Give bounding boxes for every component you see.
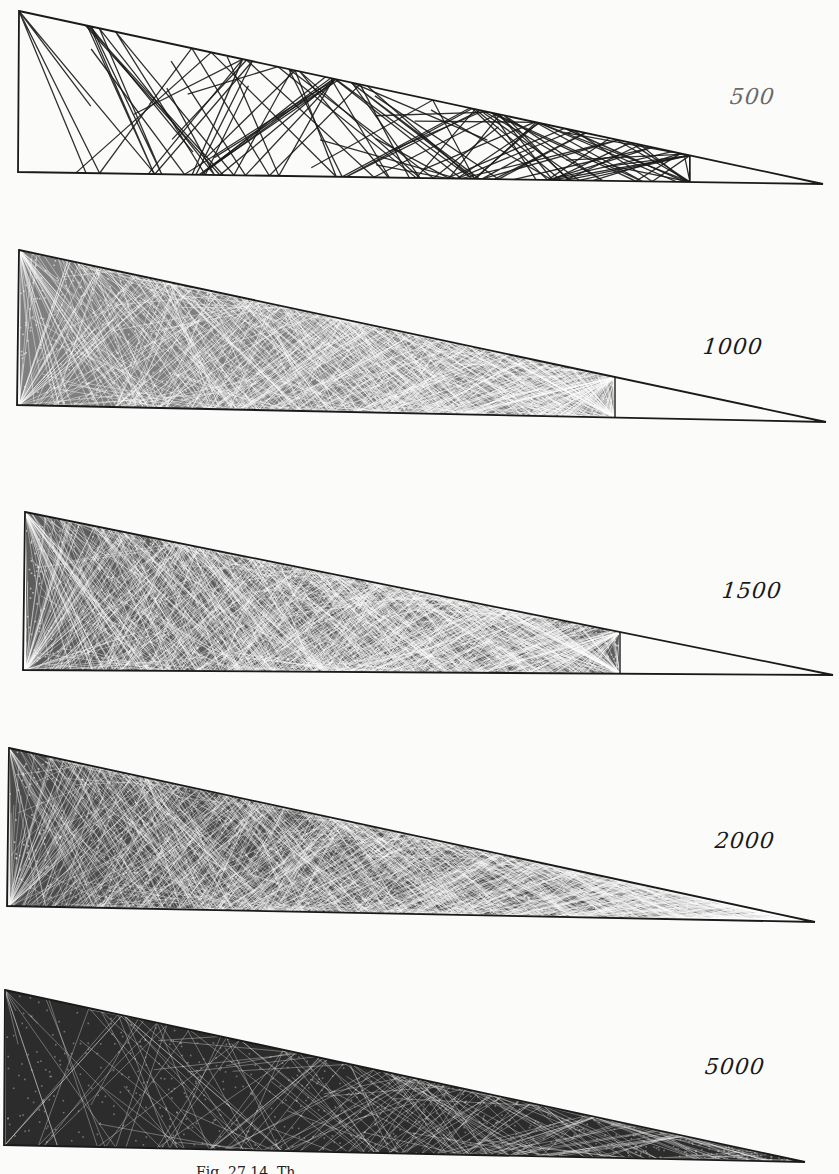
wedge-panel-1500 <box>23 512 833 675</box>
reflection-count-label-1000: 1000 <box>702 334 765 359</box>
reflection-count-label-500: 500 <box>729 84 777 109</box>
wedge-panel-5000 <box>4 990 806 1164</box>
wedge-figure <box>0 0 839 1174</box>
reflection-count-label-1500: 1500 <box>721 578 784 603</box>
reflection-count-label-2000: 2000 <box>714 828 777 853</box>
wedge-panel-500 <box>18 11 823 184</box>
reflection-count-label-5000: 5000 <box>704 1054 767 1079</box>
figure-caption: Fig. 27.14. Th <box>196 1164 295 1174</box>
wedge-panel-2000 <box>7 748 815 923</box>
